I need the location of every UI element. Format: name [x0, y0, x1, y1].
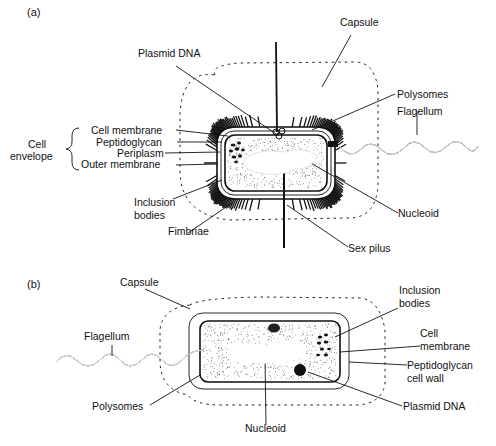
label-nucleoid-b: Nucleoid	[245, 422, 286, 434]
capsule-a-outline	[180, 62, 378, 220]
label-cell-envelope-1: Cell	[28, 138, 46, 150]
label-inclusion-bodies-b-2: bodies	[399, 297, 430, 309]
label-inclusion-bodies-b-1: Inclusion	[399, 284, 441, 296]
label-peptidoglycan-b-1: Peptidoglycan	[407, 359, 473, 371]
label-plasmid-dna-a: Plasmid DNA	[138, 47, 200, 59]
inclusion-bodies-b	[316, 334, 331, 357]
label-capsule-b: Capsule	[120, 276, 159, 288]
nucleoid-a	[244, 150, 318, 175]
leader-lines-a	[165, 35, 417, 247]
label-plasmid-dna-b: Plasmid DNA	[403, 400, 465, 412]
panel-b: (b) Capsule Flagellum Polysomes Nucleoid…	[27, 276, 473, 434]
flagellum-b	[56, 350, 204, 366]
label-polysomes-a: Polysomes	[397, 88, 448, 100]
label-polysomes-b: Polysomes	[92, 400, 143, 412]
label-peptidoglycan-b-2: cell wall	[407, 372, 444, 384]
label-sex-pilus-a: Sex pilus	[348, 242, 391, 254]
flagellum-a	[338, 141, 478, 154]
label-cell-envelope-2: envelope	[10, 150, 53, 162]
label-cell-membrane-a: Cell membrane	[91, 124, 162, 136]
flagellum-hook-a	[328, 141, 338, 147]
label-capsule-a: Capsule	[340, 16, 379, 28]
diagram-svg: (a) Plasmid DNA Capsule Polysomes Flagel…	[0, 0, 496, 446]
bacterial-cell-diagram: (a) Plasmid DNA Capsule Polysomes Flagel…	[0, 0, 496, 446]
label-cell-membrane-b-2: membrane	[420, 340, 470, 352]
label-nucleoid-a: Nucleoid	[398, 207, 439, 219]
label-flagellum-a: Flagellum	[397, 105, 443, 117]
panel-a: (a) Plasmid DNA Capsule Polysomes Flagel…	[10, 6, 478, 254]
label-flagellum-b: Flagellum	[84, 330, 130, 342]
granule-b	[268, 324, 280, 333]
label-inclusion-bodies-a-1: Inclusion	[134, 196, 176, 208]
cell-envelope-brace	[66, 128, 79, 170]
label-fimbriae-a: Fimbriae	[168, 225, 209, 237]
panel-b-label: (b)	[27, 278, 40, 290]
label-outer-membrane-a: Outer membrane	[81, 158, 161, 170]
top-pilus-a	[276, 42, 277, 132]
plasmid-dna-b	[294, 364, 306, 376]
panel-a-label: (a)	[27, 6, 40, 18]
label-inclusion-bodies-a-2: bodies	[134, 209, 165, 221]
label-cell-membrane-b-1: Cell	[420, 327, 438, 339]
